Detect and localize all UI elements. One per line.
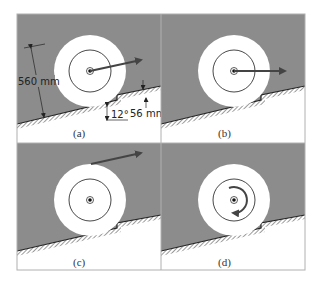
panel-label-b: (b)	[218, 127, 231, 140]
panel-b: (b)	[161, 14, 305, 143]
diameter-label: 560 mm	[18, 76, 60, 87]
wheel-step-figure: 560 mm 12° 56 mm (a) (b)	[0, 0, 319, 287]
step-height-label: 56 mm	[130, 108, 165, 119]
panel-d: (d)	[161, 143, 305, 270]
panel-c: (c)	[17, 143, 161, 270]
panel-label-a: (a)	[73, 127, 86, 140]
panel-label-d: (d)	[218, 256, 231, 269]
panel-label-c: (c)	[73, 256, 86, 269]
panel-a: 560 mm 12° 56 mm (a)	[17, 14, 165, 143]
angle-label: 12°	[111, 109, 129, 120]
